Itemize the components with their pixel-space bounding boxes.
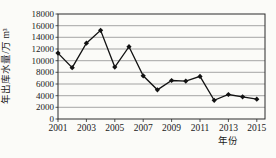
y-tick-label: 8000 (36, 67, 55, 77)
x-tick-label: 2001 (49, 123, 68, 133)
y-tick-label: 4000 (36, 91, 55, 101)
x-tick-label: 2003 (77, 123, 96, 133)
y-tick-label: 2000 (36, 102, 55, 112)
x-tick-label: 2011 (191, 123, 210, 133)
y-tick-label: 12000 (32, 44, 55, 54)
data-point-marker (226, 92, 231, 97)
y-tick-label: 18000 (32, 9, 55, 19)
data-point-marker (240, 94, 245, 99)
water-outflow-line-chart: 0200040006000800010000120001400016000180… (0, 0, 276, 158)
x-tick-label: 2005 (105, 123, 124, 133)
x-tick-label: 2009 (162, 123, 181, 133)
plot-area: 0200040006000800010000120001400016000180… (0, 0, 276, 158)
x-axis-title: 年份 (218, 135, 238, 146)
y-tick-label: 6000 (36, 79, 55, 89)
x-tick-label: 2015 (247, 123, 266, 133)
y-axis-title: 年出库水量/万 m³ (0, 28, 11, 103)
y-tick-label: 10000 (32, 56, 55, 66)
x-tick-label: 2013 (219, 123, 238, 133)
y-tick-label: 14000 (32, 32, 55, 42)
plot-border (58, 14, 265, 119)
data-point-marker (254, 97, 259, 102)
x-tick-label: 2007 (134, 123, 153, 133)
y-tick-label: 16000 (32, 21, 55, 31)
data-point-marker (183, 79, 188, 84)
